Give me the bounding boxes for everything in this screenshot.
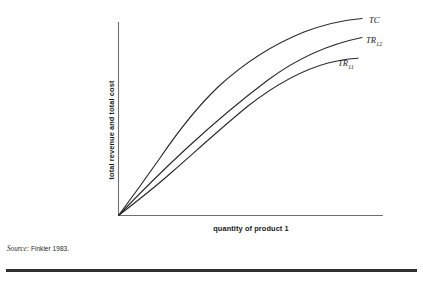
curve-label-tr11-sub: 11 (348, 63, 354, 70)
source-note-reference: Finkler 1983. (31, 245, 69, 252)
figure-container: total revenue and total cost quantity of… (0, 0, 423, 281)
curve-label-tr12: TR12 (366, 36, 382, 47)
bottom-divider-rule (6, 269, 417, 272)
curve-label-tr11: TR11 (338, 59, 354, 70)
curve-label-tc: TC (369, 16, 380, 27)
source-note-prefix: Source: (7, 245, 29, 253)
curve-label-tr11-base: TR (338, 58, 348, 68)
curve-label-tr12-sub: 12 (376, 40, 382, 47)
x-axis-title: quantity of product 1 (118, 224, 384, 233)
curve-label-tr12-base: TR (366, 35, 376, 45)
curve-label-tc-base: TC (369, 15, 380, 25)
y-axis-title: total revenue and total cost (107, 50, 116, 210)
source-note: Source: Finkler 1983. (7, 245, 69, 253)
curve-tr11 (119, 58, 359, 215)
chart-plot-area (0, 0, 423, 281)
